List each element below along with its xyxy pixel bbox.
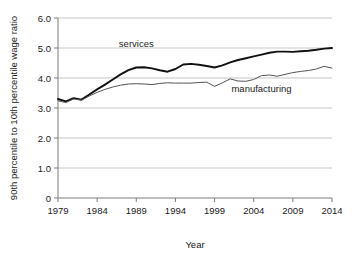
x-tick-label: 2009 [282, 205, 303, 216]
y-tick-label: 5.0 [38, 43, 51, 54]
y-axis-title: 90th percentile to 10th percentile wage … [8, 16, 19, 200]
y-axis-ticks-group: 01.02.03.04.05.06.0 [38, 13, 58, 204]
y-tick-label: 0 [46, 193, 51, 204]
wage-ratio-line-chart: 01.02.03.04.05.06.0 19791984198919941999… [0, 0, 353, 259]
y-tick-label: 2.0 [38, 133, 51, 144]
series-label-services: services [119, 38, 154, 49]
y-tick-label: 1.0 [38, 163, 51, 174]
y-tick-label: 6.0 [38, 13, 51, 24]
x-axis-ticks-group: 19791984198919941999200420092014 [47, 198, 342, 216]
x-tick-label: 1979 [47, 205, 68, 216]
y-tick-label: 4.0 [38, 73, 51, 84]
series-label-manufacturing: manufacturing [231, 83, 291, 94]
chart-canvas: 01.02.03.04.05.06.0 19791984198919941999… [0, 0, 353, 259]
x-tick-label: 1984 [87, 205, 108, 216]
x-tick-label: 2014 [321, 205, 342, 216]
x-axis-title: Year [185, 239, 204, 250]
x-tick-label: 1999 [204, 205, 225, 216]
x-tick-label: 2004 [243, 205, 264, 216]
x-tick-label: 1989 [126, 205, 147, 216]
y-tick-label: 3.0 [38, 103, 51, 114]
x-tick-label: 1994 [165, 205, 186, 216]
series-paths-group [58, 48, 332, 103]
